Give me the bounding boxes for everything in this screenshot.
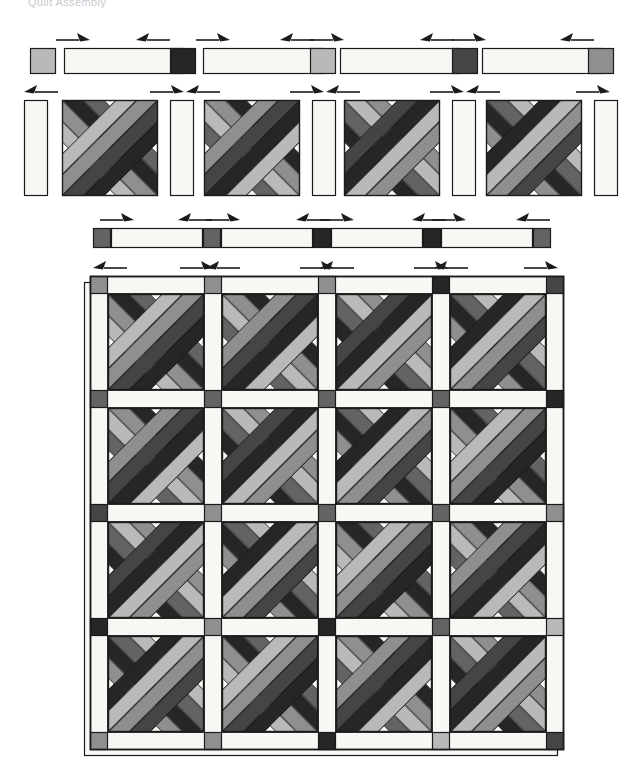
direction-arrow-left [466, 85, 500, 94]
direction-arrow-left [326, 85, 360, 94]
direction-arrow-right [576, 85, 610, 94]
direction-arrow-left [320, 261, 354, 270]
direction-arrow-left [186, 85, 220, 94]
direction-arrow-right [206, 213, 240, 222]
sashing-strip-vertical [595, 101, 618, 196]
sashing-strip-vertical [171, 101, 194, 196]
direction-arrow-right [430, 85, 464, 94]
cornerstone-square [433, 619, 450, 636]
direction-arrow-left [206, 261, 240, 270]
cornerstone-square [453, 49, 478, 74]
cornerstone-square [547, 733, 564, 750]
direction-arrow-left [136, 33, 170, 42]
cornerstone-square [171, 49, 196, 74]
direction-arrow-left [560, 33, 594, 42]
sashing-strip [112, 229, 203, 248]
cornerstone-square [205, 505, 222, 522]
cornerstone-square [314, 229, 331, 248]
direction-arrow-right [320, 213, 354, 222]
sashing-strip [332, 229, 423, 248]
direction-arrow-left [24, 85, 58, 94]
direction-arrow-left [516, 213, 550, 222]
cornerstone-square [424, 229, 441, 248]
sashing-strip [222, 229, 313, 248]
diagram-stage: Quilt Assembly Quilt Assembly Diagram [0, 0, 637, 761]
sashing-strip [65, 49, 184, 74]
cornerstone-square [91, 505, 108, 522]
cornerstone-square [534, 229, 551, 248]
cornerstone-square [547, 619, 564, 636]
direction-arrow-right [524, 261, 558, 270]
cornerstone-square [204, 229, 221, 248]
sashing-strip-vertical [25, 101, 48, 196]
direction-arrow-left [420, 33, 454, 42]
direction-arrow-right [56, 33, 90, 42]
cornerstone-square [319, 391, 336, 408]
cornerstone-square [433, 733, 450, 750]
cornerstone-square [91, 733, 108, 750]
cornerstone-square [205, 277, 222, 294]
cornerstone-square [91, 277, 108, 294]
sashing-strip-vertical [453, 101, 476, 196]
cornerstone-square [433, 277, 450, 294]
cornerstone-square [319, 277, 336, 294]
cornerstone-square [31, 49, 56, 74]
row-1-sashing-strip [31, 33, 614, 74]
cornerstone-square [311, 49, 336, 74]
sashing-strip [341, 49, 460, 74]
direction-arrow-right [452, 33, 486, 42]
cornerstone-square [205, 619, 222, 636]
direction-arrow-right [432, 213, 466, 222]
cornerstone-square [547, 391, 564, 408]
cornerstone-square [91, 619, 108, 636]
sashing-strip [204, 49, 323, 74]
direction-arrow-right [150, 85, 184, 94]
cornerstone-square [433, 391, 450, 408]
cornerstone-square [91, 391, 108, 408]
sashing-strip [483, 49, 602, 74]
sashing-strip [442, 229, 533, 248]
cornerstone-square [319, 619, 336, 636]
direction-arrow-right [196, 33, 230, 42]
cornerstone-square [547, 505, 564, 522]
direction-arrow-right [290, 85, 324, 94]
cornerstone-square [319, 505, 336, 522]
direction-arrow-left [434, 261, 468, 270]
cornerstone-square [94, 229, 111, 248]
direction-arrow-left [280, 33, 314, 42]
cornerstone-square [319, 733, 336, 750]
direction-arrow-left [93, 261, 127, 270]
cornerstone-square [589, 49, 614, 74]
cornerstone-square [547, 277, 564, 294]
main-quilt-assembly [50, 236, 603, 761]
cornerstone-square [205, 733, 222, 750]
cornerstone-square [433, 505, 450, 522]
direction-arrow-right [100, 213, 134, 222]
cornerstone-square [205, 391, 222, 408]
row-3-joined-sashing [94, 213, 551, 248]
quilt-assembly-illustration [0, 0, 637, 761]
sashing-strip-vertical [313, 101, 336, 196]
direction-arrow-right [310, 33, 344, 42]
